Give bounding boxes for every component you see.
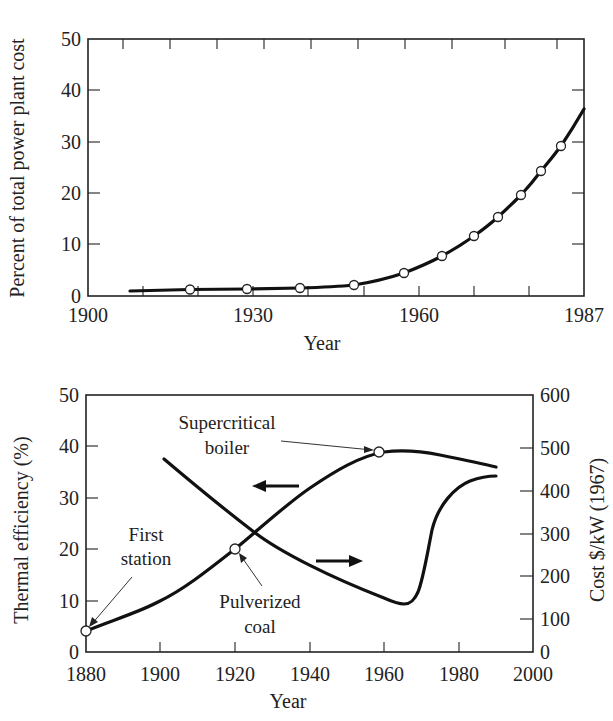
annotation-first-station-2: station	[121, 548, 172, 569]
data-markers-top	[186, 142, 566, 295]
top-plot-frame	[88, 39, 584, 296]
bottom-xtick-1880: 1880	[66, 663, 106, 685]
leader-arrowhead-icon	[364, 446, 374, 453]
bottom-ytick-0: 0	[69, 641, 79, 663]
marker-supercritical-boiler	[374, 447, 384, 457]
top-x-axis-title: Year	[304, 332, 341, 354]
right-axis-arrow-icon	[316, 555, 363, 567]
top-ytick-50: 50	[61, 28, 81, 50]
top-ytick-20: 20	[61, 182, 81, 204]
top-y-axis-title: Percent of total power plant cost	[6, 38, 29, 298]
bottom-xtick-2000: 2000	[513, 663, 553, 685]
bottom-ytick-40: 40	[59, 435, 79, 457]
annotation-supercritical-1: Supercritical	[178, 412, 275, 433]
left-axis-arrow-icon	[252, 480, 299, 492]
annotation-pulverized-2: coal	[244, 616, 276, 637]
cost-per-kw-curve	[164, 459, 496, 604]
bottom-ytick-20: 20	[59, 538, 79, 560]
annotation-supercritical-2: boiler	[205, 437, 250, 458]
top-xtick-1960: 1960	[399, 304, 439, 326]
bottom-xtick-1940: 1940	[290, 663, 330, 685]
bottom-ytick-30: 30	[59, 487, 79, 509]
bottom-ytick-10: 10	[59, 590, 79, 612]
bottom-rtick-200: 200	[540, 565, 570, 587]
leader-supercritical	[281, 441, 372, 450]
annotation-pulverized-1: Pulverized	[219, 591, 301, 612]
cost-percent-curve	[130, 109, 584, 291]
bottom-rtick-400: 400	[540, 480, 570, 502]
leader-arrowhead-icon	[239, 553, 247, 563]
bottom-rtick-0: 0	[540, 641, 550, 663]
top-ytick-10: 10	[61, 233, 81, 255]
marker-first-station	[81, 626, 91, 636]
bottom-y-axis-title-left: Thermal efficiency (%)	[10, 436, 33, 623]
bottom-rtick-600: 600	[540, 384, 570, 406]
bottom-y-axis-title-right: Cost $/kW (1967)	[586, 458, 609, 602]
bottom-ytick-50: 50	[59, 384, 79, 406]
bottom-rtick-300: 300	[540, 523, 570, 545]
bottom-x-axis-title: Year	[270, 690, 307, 712]
bottom-xtick-1960: 1960	[364, 663, 404, 685]
annotation-first-station-1: First	[129, 524, 165, 545]
bottom-xtick-1920: 1920	[215, 663, 255, 685]
bottom-chart: 50 40 30 20 10 0 600 500 400 300 200 100…	[10, 384, 609, 712]
leader-pulverized	[241, 556, 262, 586]
bottom-xtick-1980: 1980	[439, 663, 479, 685]
top-chart: 50 40 30 20 10 0 1900 1930 1960 1987 Yea…	[6, 28, 604, 354]
bottom-xtick-1900: 1900	[140, 663, 180, 685]
top-ytick-30: 30	[61, 131, 81, 153]
top-frame-ticks	[88, 39, 584, 296]
bottom-rtick-100: 100	[540, 608, 570, 630]
top-xtick-1900: 1900	[68, 304, 108, 326]
top-xtick-1930: 1930	[233, 304, 273, 326]
figure: 50 40 30 20 10 0 1900 1930 1960 1987 Yea…	[0, 0, 613, 721]
top-xtick-1987: 1987	[564, 304, 604, 326]
top-ytick-40: 40	[61, 79, 81, 101]
bottom-rtick-500: 500	[540, 437, 570, 459]
marker-pulverized-coal	[230, 544, 240, 554]
